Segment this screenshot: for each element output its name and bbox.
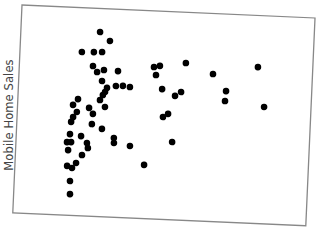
y-axis-label: Mobile Home Sales [2, 59, 16, 170]
plot-area [13, 5, 315, 226]
scatter-chart [0, 0, 318, 231]
